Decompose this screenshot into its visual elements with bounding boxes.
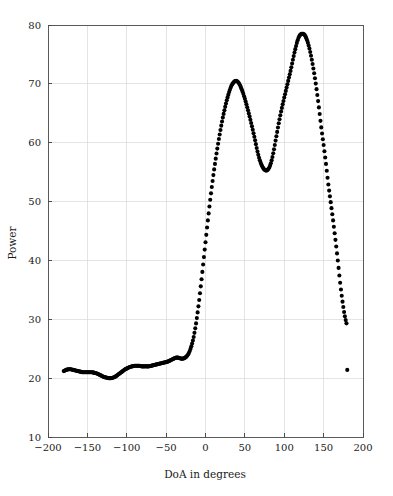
data-point [205, 226, 209, 230]
y-tick-label: 60 [28, 137, 41, 148]
data-point [318, 112, 322, 116]
data-point [312, 71, 316, 75]
data-point [331, 218, 335, 222]
data-point [211, 179, 215, 183]
data-point [315, 93, 319, 97]
data-point [313, 76, 317, 80]
y-tick-label: 20 [28, 373, 41, 384]
x-axis-title: DoA in degrees [164, 468, 246, 480]
data-point [322, 149, 326, 153]
data-point [338, 281, 342, 285]
data-point [200, 277, 204, 281]
data-point [342, 310, 346, 314]
data-point [212, 167, 216, 171]
data-point [309, 54, 313, 58]
data-point [322, 143, 326, 147]
data-point [340, 300, 344, 304]
data-point [195, 316, 199, 320]
data-point [290, 61, 294, 65]
data-point [325, 169, 329, 173]
data-point [218, 128, 222, 132]
data-point [196, 310, 200, 314]
data-point [328, 194, 332, 198]
data-point [318, 119, 322, 123]
data-point [270, 155, 274, 159]
data-point [277, 117, 281, 121]
data-point [275, 130, 279, 134]
x-tick-label: 150 [314, 442, 333, 453]
data-point [327, 189, 331, 193]
data-point [274, 134, 278, 138]
data-point [207, 204, 211, 208]
data-point [255, 146, 259, 150]
x-tick-label: 100 [275, 442, 294, 453]
data-point [209, 191, 213, 195]
data-point [222, 112, 226, 116]
data-point [253, 138, 257, 142]
data-point [307, 46, 311, 50]
data-point [334, 244, 338, 248]
data-point [219, 124, 223, 128]
data-point [326, 176, 330, 180]
data-point [213, 162, 217, 166]
data-point [311, 62, 315, 66]
x-tick-label: 50 [239, 442, 252, 453]
data-point [272, 147, 276, 151]
data-point [292, 54, 296, 58]
data-point [277, 121, 281, 125]
data-point [289, 69, 293, 73]
data-point [340, 294, 344, 298]
data-point [281, 102, 285, 106]
data-point [333, 238, 337, 242]
data-point [314, 82, 318, 86]
data-point [192, 335, 196, 339]
data-point [329, 200, 333, 204]
data-point [204, 233, 208, 237]
doa-power-scatter-chart: −200−150−100−50050100150200 102030405060… [0, 0, 393, 496]
data-point [210, 185, 214, 189]
y-axis-title: Power [6, 225, 18, 259]
data-point [216, 142, 220, 146]
data-point [339, 287, 343, 291]
x-tick-label: −150 [74, 442, 101, 453]
data-point [191, 338, 195, 342]
data-point [200, 270, 204, 274]
data-point [316, 99, 320, 103]
data-point [196, 304, 200, 308]
x-tick-label: 200 [353, 442, 372, 453]
data-point [203, 248, 207, 252]
data-point [308, 50, 312, 54]
data-point [197, 298, 201, 302]
x-tick-label: 0 [202, 442, 208, 453]
data-point [332, 225, 336, 229]
data-point [254, 142, 258, 146]
data-point [337, 266, 341, 270]
data-point [341, 305, 345, 309]
data-point [198, 291, 202, 295]
data-point [217, 137, 221, 141]
data-point [310, 58, 314, 62]
y-tick-label: 50 [28, 196, 41, 207]
data-point [251, 128, 255, 132]
data-point [320, 131, 324, 135]
data-point [192, 331, 196, 335]
y-tick-label: 40 [28, 255, 41, 266]
data-point [337, 273, 341, 277]
data-point [326, 182, 330, 186]
data-point [280, 106, 284, 110]
x-tick-label: −200 [34, 442, 61, 453]
data-point [215, 147, 219, 151]
data-point [211, 173, 215, 177]
y-tick-label: 30 [28, 314, 41, 325]
figure-container: −200−150−100−50050100150200 102030405060… [0, 0, 393, 496]
data-point [317, 105, 321, 109]
y-tick-label: 10 [28, 432, 41, 443]
data-point [199, 284, 203, 288]
data-point [222, 108, 226, 112]
data-point [271, 151, 275, 155]
data-point [201, 263, 205, 267]
data-point [278, 113, 282, 117]
data-point [311, 66, 315, 70]
data-point [314, 87, 318, 91]
y-tick-label: 70 [28, 78, 41, 89]
